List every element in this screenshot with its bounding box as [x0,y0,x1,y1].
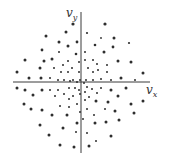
data-point [39,124,42,127]
data-point [60,71,62,73]
data-point [51,114,54,117]
data-point [103,22,106,25]
data-point [117,95,120,98]
data-point [87,67,89,69]
vx-axis-label: vx [146,83,158,99]
data-point [78,71,80,73]
data-point [24,59,27,62]
data-point [71,67,73,69]
data-point [88,96,90,98]
data-point [68,98,70,100]
data-point [41,109,44,112]
data-point [39,67,42,70]
data-point [91,88,93,90]
data-point [92,59,94,61]
data-point [106,64,108,66]
velocity-scatter-figure: vy vx [0,0,170,161]
data-point [86,132,88,134]
data-point [75,131,77,133]
data-point [120,77,123,80]
data-point [125,87,128,90]
data-point [53,67,55,69]
data-point [107,101,110,104]
data-point [110,89,113,92]
data-point [78,89,80,91]
data-point [83,82,85,84]
data-point [41,89,44,92]
data-point [32,94,35,97]
data-point [94,44,97,47]
data-point [76,81,78,83]
data-point [63,79,65,81]
data-point [41,49,44,52]
data-point [63,93,65,95]
data-point [16,71,19,74]
data-point [59,144,62,147]
data-point [130,103,133,106]
data-point [62,127,65,130]
data-point [67,60,69,62]
data-point [118,119,121,122]
data-point [45,35,48,38]
data-point [100,87,102,89]
data-point [71,22,74,25]
data-point [62,64,64,66]
data-point [110,79,112,81]
data-point [57,79,59,81]
data-point [72,95,74,97]
data-point [67,71,69,73]
data-point [142,72,145,75]
data-point [49,89,51,91]
data-point [24,89,27,92]
data-point [92,79,94,81]
data-point [76,41,79,44]
data-point [76,103,78,105]
data-point [117,60,120,63]
data-point [65,31,68,34]
data-point [96,63,98,65]
data-point [100,37,102,39]
data-point [84,99,86,101]
data-point [105,121,108,124]
data-point [95,140,97,142]
data-point [92,71,94,73]
data-point [76,122,79,125]
data-point [28,77,31,80]
data-point [72,79,74,81]
data-point [43,60,46,63]
data-point [49,77,51,79]
data-point [104,108,106,110]
scatter-points [16,22,145,148]
data-point [79,93,81,95]
vy-axis-label: vy [66,6,78,22]
data-point [40,77,43,80]
data-point [112,46,115,49]
data-point [86,108,88,110]
data-point [58,51,60,53]
data-point [54,95,56,97]
data-point [48,134,51,137]
data-point [59,105,61,107]
data-point [69,80,71,82]
data-point [67,45,70,48]
data-point [66,114,69,117]
data-point [51,58,54,61]
data-point [130,61,133,64]
data-point [86,86,88,88]
data-point [78,61,80,63]
data-point [142,100,145,103]
data-point [68,106,70,108]
data-point [68,87,70,89]
data-point [84,91,86,93]
data-point [106,71,108,73]
data-point [110,135,113,138]
data-point [134,79,136,81]
data-point [84,51,86,53]
data-point [75,53,78,56]
data-point [94,122,97,125]
data-point [114,110,117,113]
data-point [16,87,19,90]
data-point [58,41,61,44]
data-point [85,79,87,81]
data-point [97,69,99,71]
